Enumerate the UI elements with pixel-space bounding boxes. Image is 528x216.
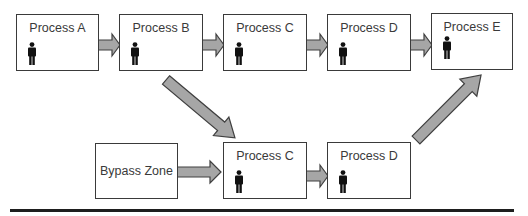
process-label: Process D <box>328 149 410 163</box>
process-label: Process E <box>432 20 512 34</box>
process-box-d: Process D <box>327 14 411 71</box>
process-label: Process C <box>224 21 306 35</box>
bypass-zone-label: Bypass Zone <box>96 164 177 178</box>
person-icon <box>27 42 37 65</box>
process-box-a: Process A <box>16 14 99 71</box>
arrow-d-to-e <box>410 34 432 56</box>
person-icon <box>130 42 140 65</box>
person-icon <box>338 170 348 193</box>
arrow-c2-to-d2 <box>306 165 328 187</box>
arrow-b-to-c2 <box>158 71 242 147</box>
bypass-zone-box: Bypass Zone <box>95 143 178 199</box>
process-label: Process A <box>17 21 98 35</box>
person-icon <box>338 42 348 65</box>
arrow-c-to-d <box>306 34 328 56</box>
arrow-bypass-to-c2 <box>177 161 221 183</box>
arrow-a-to-b <box>98 34 120 56</box>
person-icon <box>234 42 244 65</box>
process-box-e: Process E <box>431 13 513 70</box>
process-flow-diagram: Process A Process B Process C Process D <box>0 0 528 216</box>
person-icon <box>442 36 452 59</box>
baseline-divider <box>10 209 514 212</box>
process-box-b: Process B <box>119 14 203 71</box>
arrow-d2-to-e <box>408 66 490 148</box>
process-label: Process D <box>328 21 410 35</box>
process-label: Process C <box>224 149 306 163</box>
process-box-c-bypass: Process C <box>223 142 307 199</box>
process-box-c: Process C <box>223 14 307 71</box>
process-box-d-bypass: Process D <box>327 142 411 199</box>
arrow-b-to-c <box>202 34 224 56</box>
process-label: Process B <box>120 21 202 35</box>
person-icon <box>234 170 244 193</box>
